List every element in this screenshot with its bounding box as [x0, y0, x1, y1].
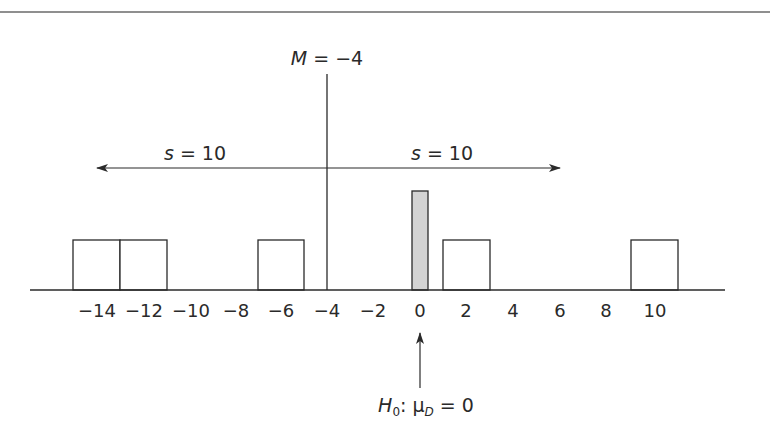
- null-hypothesis-label: H0: μD = 0: [378, 394, 474, 419]
- null-hypothesis-bar: [412, 191, 428, 290]
- figure-canvas: M = −4 s = 10 s = 10 −14 −12 −10 −8 −6 −…: [0, 0, 770, 440]
- data-box-10: [631, 240, 678, 290]
- data-box-minus6: [258, 240, 304, 290]
- tick-label: −10: [172, 300, 210, 321]
- null-mu: μ: [412, 394, 424, 416]
- null-colon: :: [400, 394, 412, 416]
- data-box-2: [443, 240, 490, 290]
- sd-left-var: s: [164, 142, 174, 164]
- data-boxes: [73, 240, 678, 290]
- tick-label: −2: [360, 300, 387, 321]
- sd-right-eq: =: [421, 142, 449, 164]
- tick-label: −8: [223, 300, 250, 321]
- tick-label: −12: [125, 300, 163, 321]
- tick-label: −14: [78, 300, 116, 321]
- sd-left-val: 10: [202, 142, 226, 164]
- sd-right-val: 10: [449, 142, 473, 164]
- null-h: H: [378, 394, 392, 416]
- data-box-minus12: [120, 240, 167, 290]
- mean-label-val: −4: [335, 47, 363, 69]
- null-mu-sub: D: [425, 405, 434, 419]
- tick-label: 10: [644, 300, 667, 321]
- sd-left-eq: =: [174, 142, 202, 164]
- null-eq: =: [434, 394, 462, 416]
- mean-label-var: M: [291, 47, 307, 69]
- sd-right-var: s: [411, 142, 421, 164]
- tick-label: 6: [554, 300, 565, 321]
- tick-label: −6: [268, 300, 295, 321]
- tick-label: 8: [600, 300, 611, 321]
- null-val: 0: [462, 394, 474, 416]
- sd-right-label: s = 10: [411, 142, 473, 164]
- tick-label: 4: [507, 300, 518, 321]
- tick-label: −4: [314, 300, 341, 321]
- tick-label: 0: [414, 300, 425, 321]
- tick-label: 2: [460, 300, 471, 321]
- data-box-minus14: [73, 240, 120, 290]
- null-h-sub: 0: [392, 405, 400, 419]
- mean-label: M = −4: [291, 47, 363, 69]
- x-tick-labels: −14 −12 −10 −8 −6 −4 −2 0 2 4 6 8 10: [78, 300, 666, 321]
- mean-label-eq: =: [307, 47, 335, 69]
- sd-left-label: s = 10: [164, 142, 226, 164]
